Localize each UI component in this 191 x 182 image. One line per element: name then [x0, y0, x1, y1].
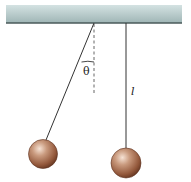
- pendulum-diagram: θ l: [0, 0, 191, 182]
- angle-label: θ: [83, 65, 90, 78]
- length-label: l: [131, 85, 135, 98]
- displaced-pendulum-string: [46, 23, 94, 140]
- angle-arc: [82, 61, 95, 62]
- ceiling: [6, 5, 182, 23]
- rest-pendulum-bob: [111, 148, 141, 178]
- displaced-pendulum-bob: [29, 140, 58, 169]
